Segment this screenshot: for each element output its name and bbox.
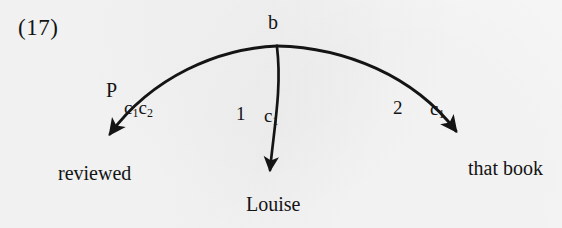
example-number: (17): [18, 16, 58, 39]
arc-right-coindex-sub: 1: [438, 107, 444, 121]
arc-diagram-figure: (17) b P c1c2 1 c1 2 c1 reviewed Louise …: [0, 0, 562, 228]
leaf-label-that-book: that book: [468, 158, 543, 178]
leaf-label-louise: Louise: [246, 194, 300, 214]
arc-right-coindex-label: c1: [430, 99, 444, 120]
arc-middle-coindex-sub: 1: [272, 114, 278, 128]
arc-path-left: [110, 46, 277, 134]
arc-middle-relation-label: 1: [236, 104, 246, 123]
arc-left-coindex-c2-sub: 2: [147, 106, 153, 120]
arc-left-coindex-c2-base: c: [138, 97, 146, 118]
arc-right-relation-label: 2: [393, 98, 403, 117]
arc-middle-coindex-label: c1: [264, 106, 278, 127]
arc-left-coindex-label: c1c2: [124, 98, 153, 119]
leaf-label-reviewed: reviewed: [58, 163, 131, 183]
arc-left-relation-label: P: [106, 80, 117, 100]
root-node-label: b: [268, 12, 278, 32]
